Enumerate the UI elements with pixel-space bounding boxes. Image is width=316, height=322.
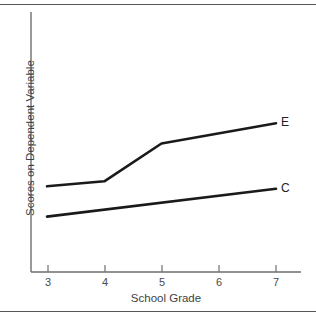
x-tick-label-4: 4 — [95, 276, 115, 288]
x-tick-label-3: 3 — [38, 276, 58, 288]
series-line-control — [47, 189, 276, 217]
line-chart-plot — [0, 0, 316, 322]
x-tick-label-7: 7 — [266, 276, 286, 288]
x-axis-title: School Grade — [31, 292, 301, 305]
series-label-experimental: E — [281, 116, 289, 129]
figure-container: 3 4 5 6 7 School Grade Scores on Depende… — [0, 0, 316, 322]
data-series-group — [47, 123, 276, 216]
series-label-control: C — [281, 182, 290, 195]
x-axis-ticks — [48, 265, 276, 272]
y-axis-title: Scores on Dependent Variable — [24, 60, 37, 216]
x-tick-label-5: 5 — [152, 276, 172, 288]
series-line-experimental — [47, 123, 276, 186]
x-tick-label-6: 6 — [209, 276, 229, 288]
